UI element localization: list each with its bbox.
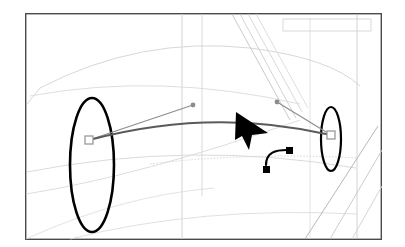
curve-tool-node-b <box>286 147 293 154</box>
control-handle-left-dot[interactable] <box>191 103 196 108</box>
curve-tool-node-a <box>263 166 270 173</box>
anchor-point-left[interactable] <box>85 136 93 144</box>
control-handle-right-dot[interactable] <box>275 100 280 105</box>
artboard-frame[interactable] <box>26 14 382 240</box>
canvas-svg[interactable] <box>0 0 405 247</box>
anchor-point-right[interactable] <box>327 131 335 139</box>
illustration-canvas[interactable] <box>0 0 405 247</box>
